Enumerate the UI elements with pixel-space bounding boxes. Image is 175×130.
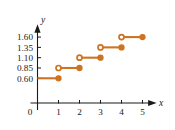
closed-endpoint-marker [119,45,124,50]
open-endpoint-marker [98,45,103,50]
open-endpoint-marker [77,55,82,60]
y-tick-label: 0.60 [17,74,33,84]
x-tick-label: 0 [28,107,33,117]
y-axis-label: y [40,15,46,25]
closed-endpoint-marker [98,55,103,60]
x-tick-label: 3 [98,107,103,117]
x-axis-label: x [158,98,164,108]
x-tick-label: 2 [77,107,82,117]
closed-endpoint-marker [56,76,61,81]
endpoint-markers [56,35,145,81]
closed-endpoint-marker [140,35,145,40]
open-endpoint-marker [119,35,124,40]
chart-canvas: yx0123450.600.851.101.351.60 [0,0,175,130]
y-tick-label: 1.60 [17,32,33,42]
step-segments [38,37,143,78]
y-tick-label: 1.10 [17,53,33,63]
y-axis-arrow-icon [34,24,40,32]
x-tick-label: 5 [140,107,145,117]
y-tick-label: 1.35 [17,43,33,53]
x-tick-label: 1 [56,107,61,117]
y-tick-label: 0.85 [17,63,33,73]
x-axis-arrow-icon [148,100,157,106]
closed-endpoint-marker [77,65,82,70]
open-endpoint-marker [56,65,61,70]
x-tick-label: 4 [119,107,124,117]
tick-marks [37,37,143,103]
step-function-chart: yx0123450.600.851.101.351.60 [0,0,175,130]
